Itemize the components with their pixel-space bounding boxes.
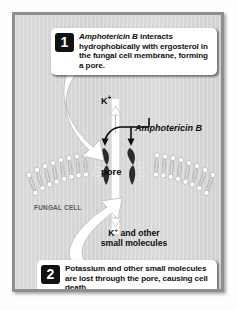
efflux-down-arrow-icon <box>110 211 121 227</box>
fungal-cell-label: FUNGAL CELL <box>34 204 82 211</box>
potassium-top-label: K+ <box>101 96 111 106</box>
amphotericin-label: Amphotericin B <box>135 123 202 133</box>
diagram-stage: K+ Amphotericin B pore FUNGAL CELL K+ an… <box>15 15 221 289</box>
figure-root: K+ Amphotericin B pore FUNGAL CELL K+ an… <box>0 0 237 310</box>
amphotericin-arrowhead-right <box>128 139 135 147</box>
step-2-badge: 2 <box>41 265 60 284</box>
step-1-callout: 1 Amphotericin B interacts hydrophobical… <box>51 28 217 75</box>
step-2-callout: 2 Potassium and other small molecules ar… <box>37 260 217 292</box>
step-1-text: Amphotericin B interacts hydrophobically… <box>79 32 212 71</box>
step1-callout-arrow-icon <box>64 67 104 161</box>
amphotericin-arrowhead-left <box>102 139 109 147</box>
step-1-badge: 1 <box>55 33 74 52</box>
step-2-text: Potassium and other small molecules are … <box>65 264 212 292</box>
pore-label: pore <box>101 166 122 177</box>
potassium-efflux-arrow-icon <box>110 106 121 133</box>
ergosterol-ring-right <box>135 162 144 180</box>
diagram-panel: K+ Amphotericin B pore FUNGAL CELL K+ an… <box>12 12 224 292</box>
amphotericin-complex-right <box>127 148 135 185</box>
potassium-efflux-label: K+ and othersmall molecules <box>85 228 183 248</box>
membrane-left-leaflet <box>26 153 89 196</box>
step-1-emphasis: Amphotericin B <box>79 32 138 41</box>
membrane-right-leaflet <box>153 153 216 196</box>
